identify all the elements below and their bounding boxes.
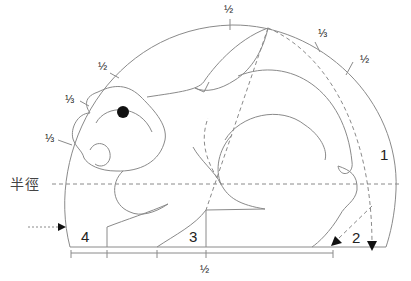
cat-body-arc-outer xyxy=(238,70,352,174)
cat-body-arc-inner xyxy=(225,114,326,160)
arc-tick xyxy=(58,140,72,145)
label-left-third-lower: ⅓ xyxy=(45,133,54,144)
arc-tick xyxy=(315,42,320,52)
arc-tick xyxy=(80,101,89,106)
cat-hind-leg-front xyxy=(157,210,206,247)
cat-head-outline xyxy=(72,87,165,172)
label-2: 2 xyxy=(352,230,360,245)
label-right-half: ½ xyxy=(360,54,369,65)
dashed-back-arc xyxy=(268,28,372,245)
cat-thigh xyxy=(218,135,232,184)
label-left-third-upper: ⅓ xyxy=(65,94,74,105)
left-arrow-head xyxy=(58,223,66,231)
label-left-half: ½ xyxy=(98,61,107,72)
cat-front-paw xyxy=(107,204,168,247)
arc-tick xyxy=(346,62,353,75)
label-bottom-half: ½ xyxy=(200,264,209,275)
label-3: 3 xyxy=(189,229,197,244)
label-radius: 半徑 xyxy=(10,177,40,191)
label-upper-right-third: ⅓ xyxy=(318,28,327,39)
arrow-head-1 xyxy=(367,241,377,251)
cat-muzzle xyxy=(90,144,110,166)
cat-hind-leg xyxy=(193,147,265,210)
cat-tail xyxy=(312,166,357,247)
cat-eye xyxy=(117,106,129,118)
label-4: 4 xyxy=(81,229,89,244)
label-top-half: ½ xyxy=(224,4,233,15)
cat-ear xyxy=(147,28,268,97)
cat-back-line xyxy=(195,28,268,90)
label-1: 1 xyxy=(380,147,388,162)
dashed-diagonal xyxy=(206,28,268,210)
outer-arc xyxy=(65,25,396,247)
arrow-head-2 xyxy=(331,236,342,246)
cat-proportion-diagram xyxy=(0,0,411,281)
